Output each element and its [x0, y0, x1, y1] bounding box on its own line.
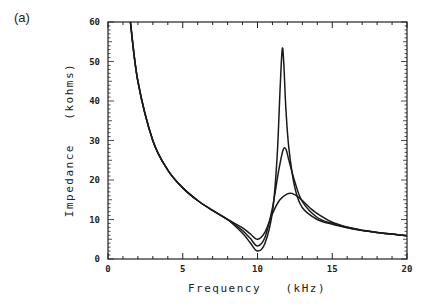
series-line-curve-low-Q [128, 2, 407, 239]
series-line-curve-high-Q [128, 2, 407, 251]
y-tick-label: 10 [89, 215, 100, 225]
x-tick-label: 0 [105, 264, 110, 274]
y-tick-label: 60 [89, 17, 100, 27]
y-tick-label: 20 [89, 175, 100, 185]
tick-labels: 051015200102030405060 [89, 17, 412, 274]
impedance-chart: 051015200102030405060 Frequency (kHz) Im… [0, 0, 433, 307]
x-tick-label: 5 [180, 264, 185, 274]
y-axis-title: Impedance (kohms) [63, 63, 76, 217]
x-axis-title: Frequency (kHz) [188, 282, 326, 295]
series-line-curve-mid-Q [128, 2, 407, 246]
y-tick-label: 40 [89, 96, 100, 106]
x-tick-label: 10 [252, 264, 263, 274]
y-tick-label: 0 [95, 254, 100, 264]
x-tick-label: 20 [402, 264, 413, 274]
data-series [128, 2, 407, 251]
y-tick-label: 30 [89, 136, 100, 146]
x-tick-label: 15 [327, 264, 338, 274]
y-tick-label: 50 [89, 57, 100, 67]
